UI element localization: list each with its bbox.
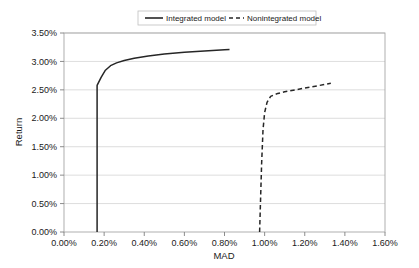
chart-background [0, 0, 419, 268]
y-axis-tick-label: 3.00% [31, 57, 57, 67]
legend-label-integrated-model: Integrated model [166, 14, 226, 23]
x-axis-tick-label: 1.00% [252, 238, 278, 248]
x-axis-tick-label: 0.40% [131, 238, 157, 248]
legend: Integrated model Nonintegrated model [138, 11, 321, 25]
x-axis-tick-label: 1.40% [332, 238, 358, 248]
y-axis-title: Return [13, 118, 24, 147]
legend-label-nonintegrated-model: Nonintegrated model [247, 14, 321, 23]
return-vs-mad-line-chart: 0.00%0.50%1.00%1.50%2.00%2.50%3.00%3.50%… [0, 0, 419, 268]
y-axis-tick-label: 2.00% [31, 113, 57, 123]
y-axis-tick-label: 3.50% [31, 28, 57, 38]
y-axis-tick-label: 1.00% [31, 170, 57, 180]
chart-container: 0.00%0.50%1.00%1.50%2.00%2.50%3.00%3.50%… [0, 0, 419, 268]
x-axis-tick-label: 0.60% [172, 238, 198, 248]
y-axis-tick-label: 1.50% [31, 142, 57, 152]
x-axis-tick-label: 0.00% [51, 238, 77, 248]
x-axis-title: MAD [213, 250, 234, 261]
y-axis-tick-label: 0.50% [31, 199, 57, 209]
y-axis-tick-label: 2.50% [31, 85, 57, 95]
x-axis-tick-label: 1.20% [292, 238, 318, 248]
x-axis-tick-label: 0.20% [91, 238, 117, 248]
y-axis-tick-label: 0.00% [31, 227, 57, 237]
x-axis-tick-label: 0.80% [212, 238, 238, 248]
x-axis-tick-labels: 0.00%0.20%0.40%0.60%0.80%1.00%1.20%1.40%… [51, 238, 398, 248]
x-axis-tick-label: 1.60% [372, 238, 398, 248]
